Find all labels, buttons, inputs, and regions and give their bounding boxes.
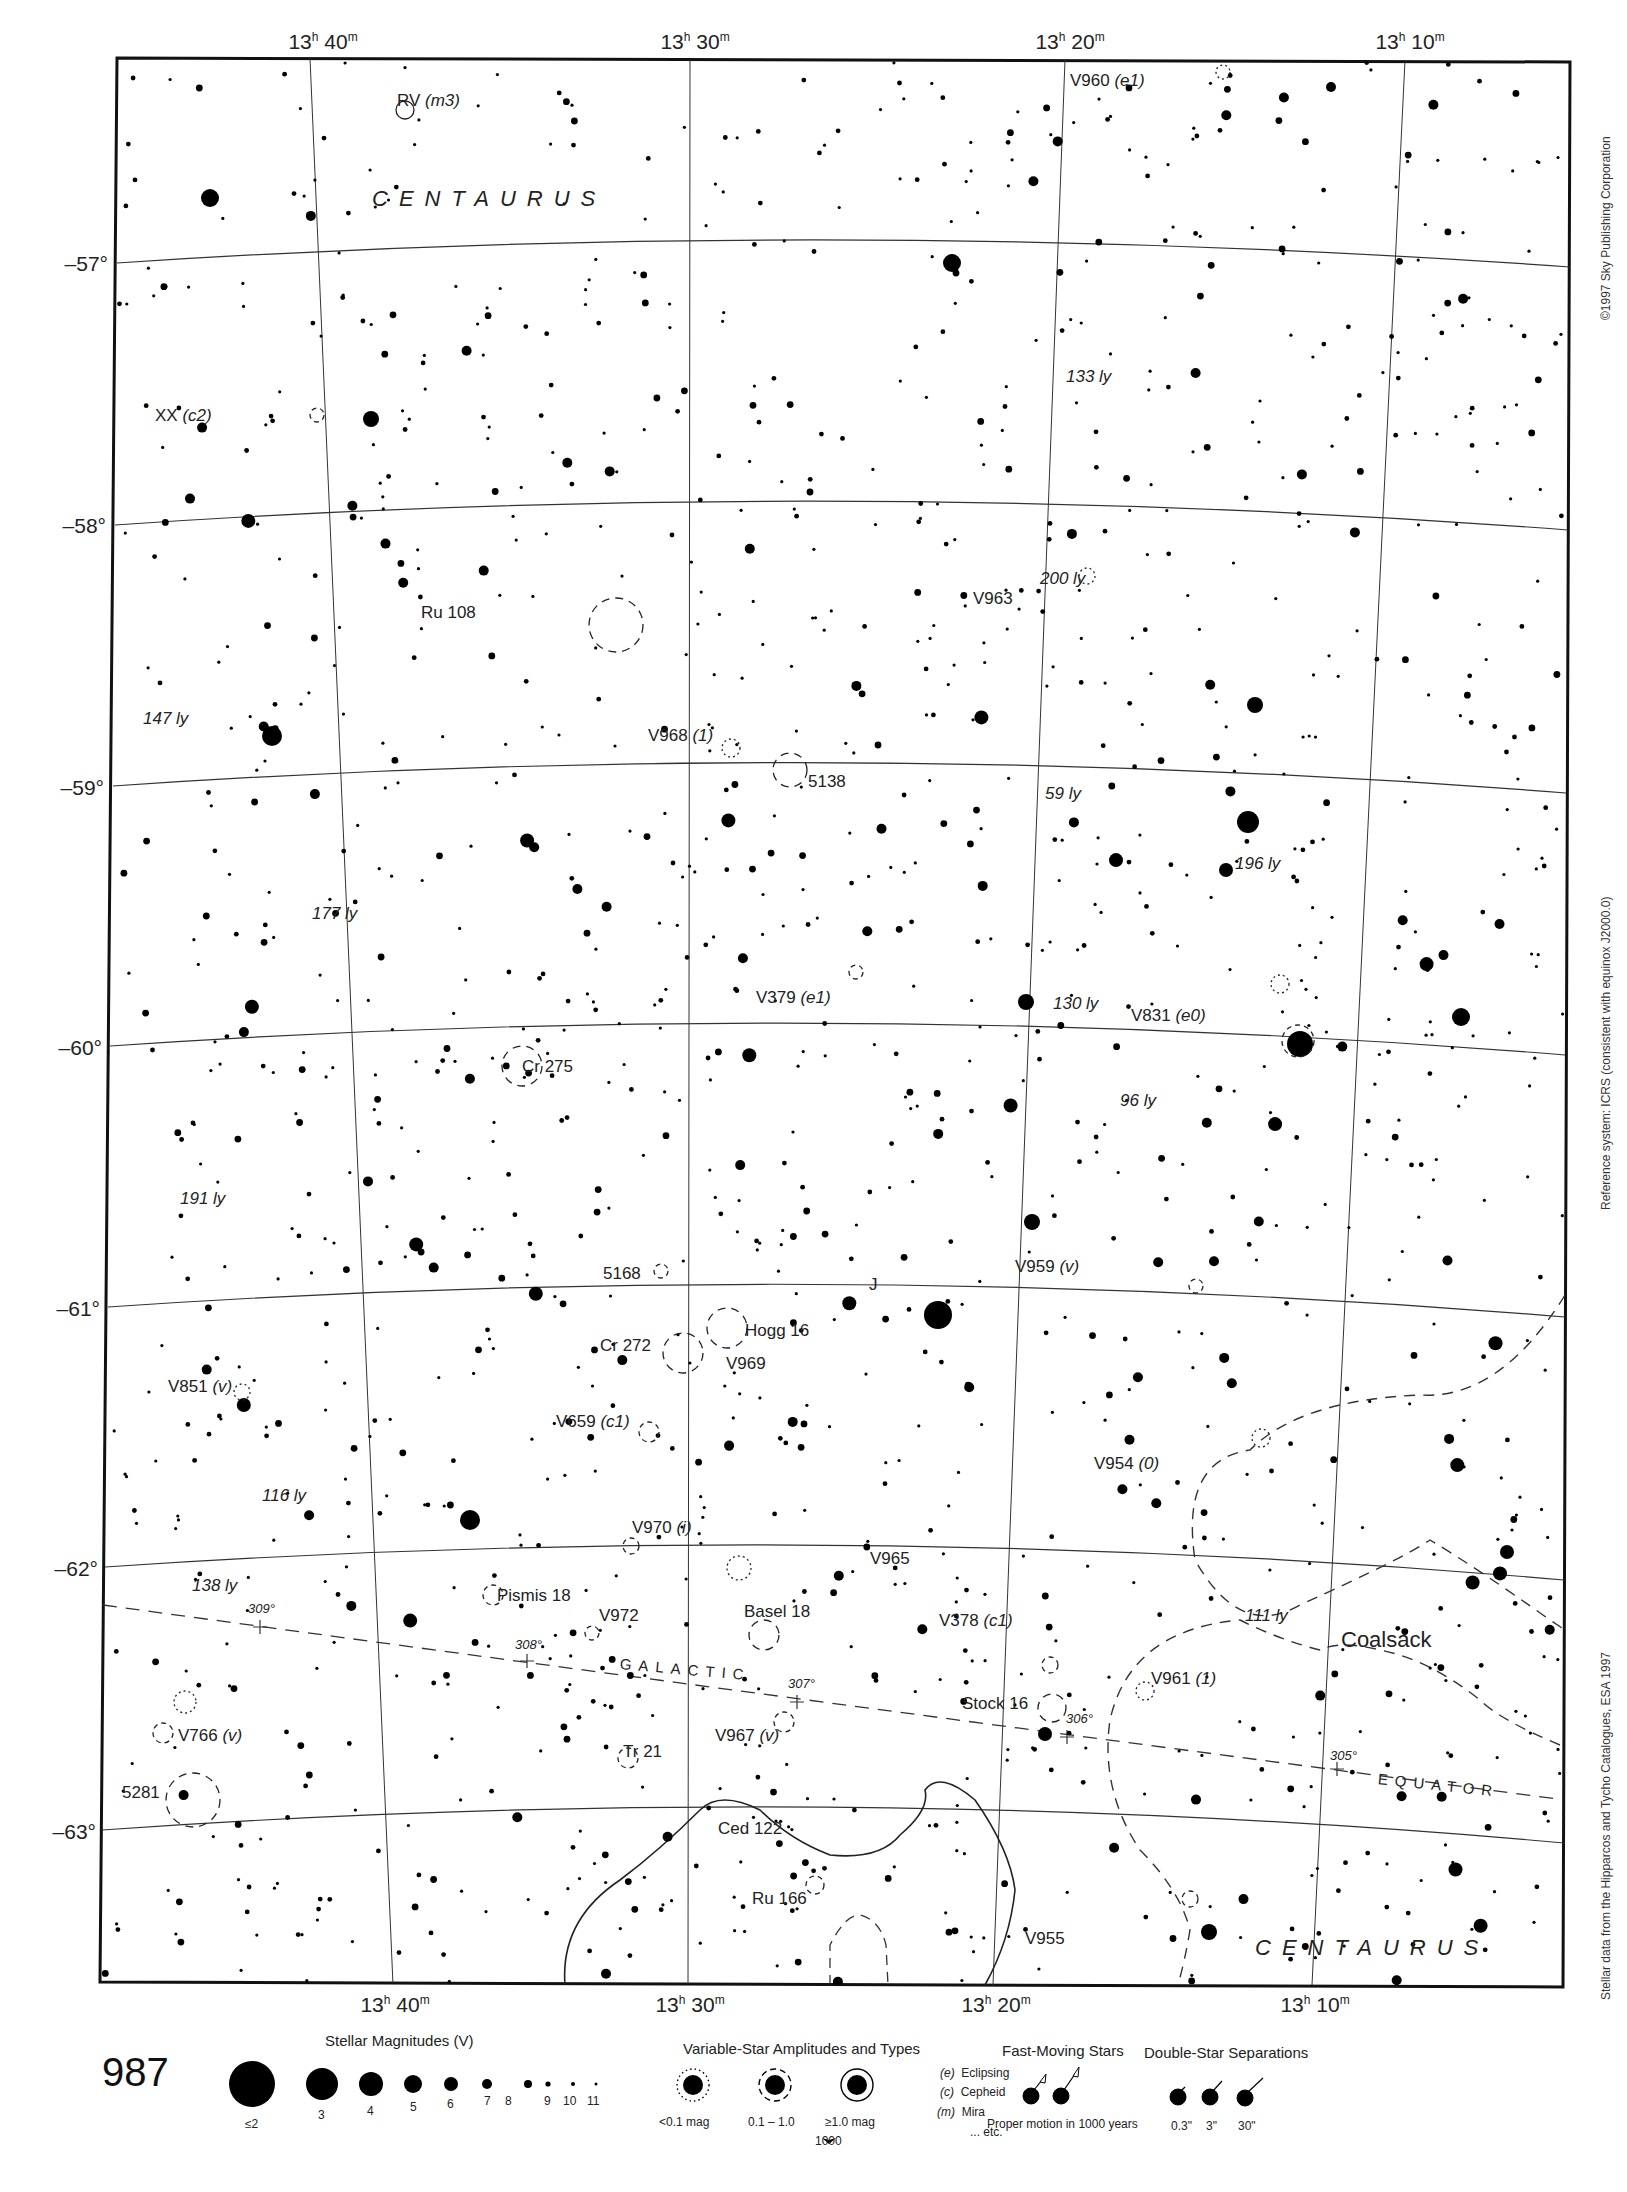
object-label-5281: 5281 xyxy=(122,1784,160,1801)
ra-label-top-13h10: 13h 10m xyxy=(1375,30,1444,54)
star-chart xyxy=(0,0,1627,2192)
mag-label-2: ≤2 xyxy=(245,2117,258,2131)
dec-label-57: –57° xyxy=(38,252,108,276)
ra-label-bottom-13h10: 13h 10m xyxy=(1280,1993,1349,2017)
distance-label-138: 138 ly xyxy=(192,1577,237,1594)
gal-long-309: 309° xyxy=(248,1601,275,1616)
mag-label-8: 8 xyxy=(505,2094,512,2108)
mag-label-9: 9 xyxy=(544,2094,551,2108)
mag-label-6: 6 xyxy=(447,2097,454,2111)
object-label-5168: 5168 xyxy=(603,1265,641,1282)
object-label-v969: V969 xyxy=(726,1355,766,1372)
object-label-pismis18: Pismis 18 xyxy=(497,1587,571,1604)
ra-label-top-13h20: 13h 20m xyxy=(1035,30,1104,54)
fast-moving-legend-title: Fast-Moving Stars xyxy=(1002,2042,1124,2059)
distance-label-59: 59 ly xyxy=(1045,785,1081,802)
ra-line-13h30 xyxy=(688,58,690,1985)
page-number: 987 xyxy=(102,2050,169,2095)
type-mira: (m) Mira xyxy=(937,2105,985,2119)
copyright-text: ©1997 Sky Publishing Corporation xyxy=(1599,136,1613,320)
double-star-legend xyxy=(1170,2078,1263,2106)
ra-label-top-13h30: 13h 30m xyxy=(660,30,729,54)
ra-label-top-13h40: 13h 40m xyxy=(288,30,357,54)
dec-label-63: –63° xyxy=(26,1820,96,1844)
dec-line-60 xyxy=(110,1023,1565,1055)
type-cepheid: (c) Cepheid xyxy=(940,2085,1005,2099)
dec-label-61: –61° xyxy=(30,1297,100,1321)
sep-label-3: 30" xyxy=(1238,2119,1256,2133)
distance-label-196: 196 ly xyxy=(1235,855,1280,872)
type-eclipsing: (e) Eclipsing xyxy=(940,2066,1009,2080)
dec-line-63 xyxy=(102,1807,1564,1843)
amp-label-1: <0.1 mag xyxy=(659,2115,709,2129)
object-label-ru108: Ru 108 xyxy=(421,604,476,621)
amp-label-2: 0.1 – 1.0 xyxy=(748,2115,795,2129)
variable-legend xyxy=(677,2069,873,2144)
object-label-v960: V960 (e1) xyxy=(1070,72,1145,89)
sep-label-1: 0.3" xyxy=(1171,2119,1192,2133)
object-label-v831: V831 (e0) xyxy=(1131,1007,1206,1024)
dec-line-61 xyxy=(108,1284,1565,1317)
reference-system-text: Reference system: ICRS (consistent with … xyxy=(1599,897,1613,1210)
object-label-j: J xyxy=(869,1276,878,1293)
object-label-basel18: Basel 18 xyxy=(744,1603,810,1620)
fast-moving-caption: Proper motion in 1000 years xyxy=(987,2117,1138,2131)
mag-label-11: 11 xyxy=(587,2094,599,2108)
object-label-v766: V766 (v) xyxy=(178,1727,242,1744)
distance-label-200: 200 ly xyxy=(1040,570,1085,587)
dec-line-58 xyxy=(115,501,1568,530)
object-label-v963: V963 xyxy=(973,590,1013,607)
distance-label-133: 133 ly xyxy=(1066,368,1111,385)
chart-frame xyxy=(100,58,1570,1987)
mag-label-5: 5 xyxy=(410,2100,417,2114)
object-label-rv: RV (m3) xyxy=(397,92,460,109)
ra-label-bottom-13h30: 13h 30m xyxy=(655,1993,724,2017)
object-label-v968: V968 (1) xyxy=(648,727,713,744)
amp-label-3: ≥1.0 mag xyxy=(825,2115,875,2129)
object-label-hogg16: Hogg 16 xyxy=(745,1322,809,1339)
dec-line-57 xyxy=(117,240,1570,267)
distance-label-116: 116 ly xyxy=(262,1487,306,1504)
dark-nebula-outline xyxy=(830,1915,888,1985)
distance-label-147: 147 ly xyxy=(143,710,188,727)
object-label-tr21: Tr 21 xyxy=(623,1743,662,1760)
object-label-ru166: Ru 166 xyxy=(752,1890,807,1907)
ra-line-13h40 xyxy=(310,58,393,1985)
data-source-text: Stellar data from the Hipparcos and Tych… xyxy=(1599,1652,1613,2000)
gal-long-307: 307° xyxy=(788,1676,815,1691)
object-label-v959: V959 (v) xyxy=(1015,1258,1079,1275)
legend-marker-1000: 1000 xyxy=(815,2134,842,2148)
object-label-v851: V851 (v) xyxy=(168,1378,232,1395)
ra-label-bottom-13h40: 13h 40m xyxy=(360,1993,429,2017)
object-label-v378: V378 (c1) xyxy=(939,1612,1013,1629)
object-label-ced122: Ced 122 xyxy=(718,1820,782,1837)
variable-star-markers xyxy=(153,65,1314,1907)
gal-long-308: 308° xyxy=(515,1637,542,1652)
distance-label-111: 111 ly xyxy=(1245,1607,1288,1624)
object-label-xx: XX (c2) xyxy=(155,407,212,424)
object-label-v961: V961 (1) xyxy=(1151,1670,1216,1687)
sep-label-2: 3" xyxy=(1206,2119,1217,2133)
ced122-boundary xyxy=(565,1782,1015,1985)
object-label-v970: V970 (i) xyxy=(632,1519,692,1536)
dec-label-59: –59° xyxy=(34,776,104,800)
constellation-label-bottom: CENTAURUS xyxy=(1255,1935,1489,1961)
mag-label-4: 4 xyxy=(367,2104,374,2118)
gal-long-306: 306° xyxy=(1066,1711,1093,1726)
object-label-v954: V954 (0) xyxy=(1094,1455,1159,1472)
coalsack-boundary xyxy=(1108,1295,1565,1985)
mag-label-10: 10 xyxy=(563,2094,576,2108)
object-label-cr272: Cr 272 xyxy=(600,1337,651,1354)
object-label-v659: V659 (c1) xyxy=(556,1413,630,1430)
object-label-stock16: Stock 16 xyxy=(962,1695,1028,1712)
dec-label-60: –60° xyxy=(32,1036,102,1060)
object-label-v955: V955 xyxy=(1025,1930,1065,1947)
dec-label-62: –62° xyxy=(28,1557,98,1581)
object-label-cr275: Cr 275 xyxy=(522,1058,573,1075)
distance-label-96: 96 ly xyxy=(1120,1092,1156,1109)
double-star-legend-title: Double-Star Separations xyxy=(1144,2044,1308,2061)
object-label-v379: V379 (e1) xyxy=(756,989,831,1006)
ra-label-bottom-13h20: 13h 20m xyxy=(961,1993,1030,2017)
variable-legend-title: Variable-Star Amplitudes and Types xyxy=(683,2040,920,2057)
object-label-v967: V967 (v) xyxy=(715,1727,779,1744)
